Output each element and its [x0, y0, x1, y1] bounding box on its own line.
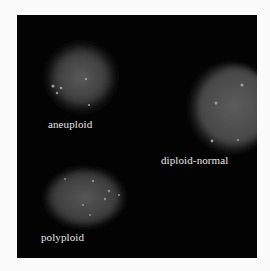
aneuploid-label: aneuploid — [48, 118, 92, 130]
aneuploid-nucleus — [31, 33, 131, 123]
diploid-normal-label: diploid-normal — [161, 154, 228, 166]
polyploid-nucleus — [35, 159, 135, 239]
diploid-normal-nucleus — [174, 53, 257, 163]
fluorescence-micrograph-panel: aneuploid diploid-normal — [17, 15, 257, 258]
polyploid-label: polyploid — [41, 231, 84, 243]
